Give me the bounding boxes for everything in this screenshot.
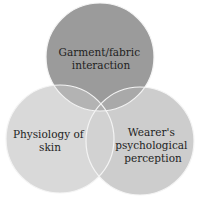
label-line: Physiology of [13,128,85,140]
label-line: psychological [115,139,188,151]
label-line: skin [39,141,61,153]
label-line: perception [124,152,182,164]
label-line: Garment/fabric [59,46,141,58]
label-line: interaction [72,59,131,71]
label-line: Wearer's [128,126,175,138]
venn-diagram: Garment/fabric interaction Physiology of… [0,0,202,208]
